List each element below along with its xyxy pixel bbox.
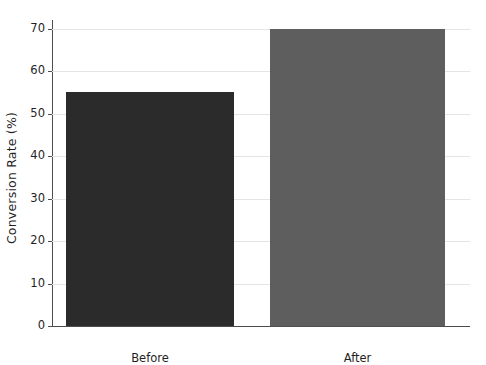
y-tick-mark (48, 284, 52, 285)
y-tick-label: 60 (30, 65, 45, 77)
y-tick-mark (48, 156, 52, 157)
y-tick-mark (48, 241, 52, 242)
y-tick-mark (48, 71, 52, 72)
y-tick-label: 20 (30, 235, 45, 247)
x-tick-label-before: Before (131, 351, 169, 365)
x-axis-spine (52, 326, 470, 327)
y-tick-label: 0 (38, 320, 45, 332)
y-axis-title: Conversion Rate (%) (0, 0, 22, 356)
bar-after[interactable] (270, 29, 445, 327)
y-tick-label: 30 (30, 193, 45, 205)
y-tick-mark (48, 114, 52, 115)
bar-before[interactable] (66, 92, 234, 326)
y-tick-mark (48, 199, 52, 200)
y-tick-label: 50 (30, 108, 45, 120)
y-tick-mark (48, 326, 52, 327)
y-tick-label: 70 (30, 23, 45, 35)
x-tick-label-after: After (344, 351, 372, 365)
y-tick-label: 10 (30, 278, 45, 290)
plot-area: 010203040506070BeforeAfter (52, 20, 470, 326)
y-tick-mark (48, 29, 52, 30)
y-tick-label: 40 (30, 150, 45, 162)
